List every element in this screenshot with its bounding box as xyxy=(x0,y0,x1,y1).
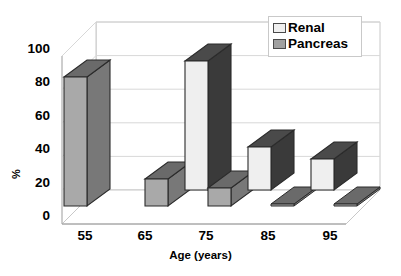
x-tick-65: 65 xyxy=(122,228,168,243)
y-tick-0: 0 xyxy=(16,209,50,223)
legend-swatch-renal xyxy=(273,23,286,33)
chart-legend: Renal Pancreas xyxy=(268,16,362,57)
legend-label-pancreas: Pancreas xyxy=(288,37,348,51)
bar-pancreas-95 xyxy=(334,187,380,206)
legend-swatch-pancreas xyxy=(273,39,286,49)
bar-renal-85 xyxy=(248,130,294,190)
bar-chart: 100 80 60 40 20 0 % 55 65 75 85 95 Age (… xyxy=(0,0,401,276)
legend-label-renal: Renal xyxy=(288,21,325,35)
y-tick-100: 100 xyxy=(16,42,50,56)
y-tick-80: 80 xyxy=(16,75,50,89)
bar-renal-75 xyxy=(185,44,231,190)
x-tick-85: 85 xyxy=(245,228,291,243)
bar-pancreas-65 xyxy=(145,162,191,206)
x-tick-55: 55 xyxy=(62,228,108,243)
bar-renal-95 xyxy=(311,142,357,190)
x-axis-label: Age (years) xyxy=(0,249,401,261)
legend-item-pancreas[interactable]: Pancreas xyxy=(273,36,357,52)
y-axis-ticks: 100 80 60 40 20 0 xyxy=(10,0,50,276)
y-tick-60: 60 xyxy=(16,109,50,123)
y-axis-label: % xyxy=(10,154,22,194)
x-tick-95: 95 xyxy=(307,228,353,243)
bar-pancreas-55 xyxy=(64,60,110,206)
x-tick-75: 75 xyxy=(183,228,229,243)
bar-pancreas-85 xyxy=(271,187,317,206)
legend-item-renal[interactable]: Renal xyxy=(273,20,357,36)
